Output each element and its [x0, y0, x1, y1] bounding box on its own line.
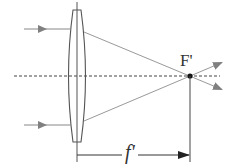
incoming-ray-bottom-arrow-icon: [38, 121, 47, 129]
incoming-ray-top-arrow-icon: [38, 25, 47, 33]
lens-diagram: [0, 0, 237, 168]
refracted-ray-top: [84, 32, 222, 90]
focal-length-label: f': [122, 142, 138, 162]
focal-point-label: F': [180, 52, 193, 69]
refracted-ray-bottom: [84, 63, 222, 122]
